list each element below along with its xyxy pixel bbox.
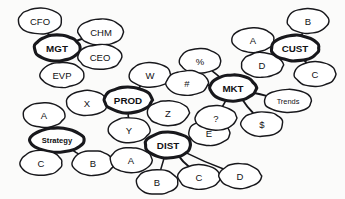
node-label: Z <box>165 108 171 119</box>
node-label: D <box>237 171 244 182</box>
node-label: W <box>146 70 155 81</box>
node-mgt[interactable]: MGT <box>34 35 80 61</box>
node-layer: CFOCHMMGTCEOEVPWXPRODYZAStrategyCBADISTB… <box>18 8 336 194</box>
node-strategy[interactable]: Strategy <box>29 128 84 152</box>
node-hash[interactable]: # <box>166 70 209 95</box>
node-w[interactable]: W <box>129 62 170 87</box>
node-label: CEO <box>90 52 111 63</box>
node-dollar[interactable]: $ <box>241 112 283 137</box>
node-chm[interactable]: CHM <box>78 19 124 45</box>
node-link-diagram: CFOCHMMGTCEOEVPWXPRODYZAStrategyCBADISTB… <box>0 0 345 199</box>
node-b-dist[interactable]: B <box>136 170 177 194</box>
node-c-dist[interactable]: C <box>178 165 221 190</box>
node-z[interactable]: Z <box>147 101 189 126</box>
node-label: B <box>305 16 311 27</box>
node-mkt[interactable]: MKT <box>210 75 257 101</box>
node-cust[interactable]: CUST <box>271 35 318 61</box>
edge-c_dist-to-dist <box>179 156 188 166</box>
node-a-cust[interactable]: A <box>232 28 274 53</box>
node-d-dist[interactable]: D <box>219 164 262 189</box>
node-c-left[interactable]: C <box>20 150 62 175</box>
node-label: X <box>84 98 91 109</box>
node-evp[interactable]: EVP <box>40 63 84 88</box>
node-label: $ <box>259 119 265 130</box>
node-label: Strategy <box>42 136 73 145</box>
node-trends[interactable]: Trends <box>265 89 312 112</box>
edge-dollar-to-mkt <box>243 100 253 113</box>
node-label: MKT <box>222 83 243 94</box>
node-pct[interactable]: % <box>179 48 221 73</box>
node-b-cust[interactable]: B <box>287 8 329 33</box>
node-label: Y <box>126 125 133 136</box>
node-label: B <box>90 158 96 169</box>
edge-trends-to-mkt <box>254 93 266 96</box>
node-b-left[interactable]: B <box>72 151 114 176</box>
node-label: CUST <box>282 43 309 54</box>
node-label: D <box>259 60 266 71</box>
node-label: CFO <box>30 16 50 27</box>
node-c-cust[interactable]: C <box>294 61 336 86</box>
diagram-canvas: CFOCHMMGTCEOEVPWXPRODYZAStrategyCBADISTB… <box>0 0 345 199</box>
node-label: A <box>128 155 135 166</box>
node-prod[interactable]: PROD <box>104 87 152 113</box>
node-label: CHM <box>90 27 112 38</box>
edge-b_dist-to-dist <box>161 158 165 170</box>
node-label: C <box>38 158 45 169</box>
node-a-left[interactable]: A <box>23 103 65 128</box>
node-label: PROD <box>114 95 142 106</box>
node-x[interactable]: X <box>66 90 108 115</box>
node-cfo[interactable]: CFO <box>18 8 61 34</box>
node-label: B <box>154 177 160 188</box>
node-label: % <box>196 56 205 67</box>
node-label: # <box>184 78 190 89</box>
node-label: DIST <box>157 140 179 151</box>
node-y[interactable]: Y <box>108 118 150 143</box>
node-label: C <box>196 172 203 183</box>
node-label: EVP <box>52 70 71 81</box>
node-label: C <box>312 69 319 80</box>
node-label: ? <box>213 113 218 124</box>
node-label: MGT <box>46 43 68 54</box>
node-label: Trends <box>277 97 300 106</box>
node-label: A <box>250 35 257 46</box>
node-q[interactable]: ? <box>195 105 237 130</box>
node-label: A <box>41 110 48 121</box>
node-ceo[interactable]: CEO <box>78 44 122 69</box>
node-dist[interactable]: DIST <box>145 132 190 158</box>
